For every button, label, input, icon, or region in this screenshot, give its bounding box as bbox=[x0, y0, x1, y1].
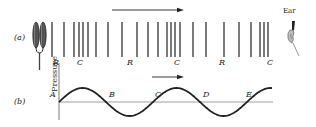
y-axis-label: Pressure bbox=[50, 56, 59, 92]
part-a-label: (a) bbox=[14, 34, 25, 42]
tuning-fork-icon bbox=[33, 22, 46, 70]
rarefaction-label: R bbox=[219, 59, 225, 67]
rarefaction-label: R bbox=[127, 59, 133, 67]
ear-label: Ear bbox=[283, 8, 296, 15]
wave-point-a: A bbox=[50, 91, 56, 99]
wave-point-e: E bbox=[246, 91, 252, 99]
propagation-arrow-top bbox=[112, 8, 184, 12]
compression-label: C bbox=[174, 59, 180, 67]
wave-point-c: C bbox=[155, 91, 161, 99]
propagation-arrow-bottom bbox=[152, 75, 184, 79]
wave-point-b: B bbox=[109, 91, 115, 99]
part-b-label: (b) bbox=[14, 98, 25, 106]
wave-point-d: D bbox=[203, 91, 209, 99]
ear-icon bbox=[288, 21, 299, 56]
compression-label: C bbox=[267, 59, 273, 67]
sound-wave-diagram: (a) (b) Ear RCRCRC Pressure ABCDE bbox=[0, 0, 316, 127]
compression-label: C bbox=[77, 59, 83, 67]
pressure-lines bbox=[52, 22, 268, 57]
